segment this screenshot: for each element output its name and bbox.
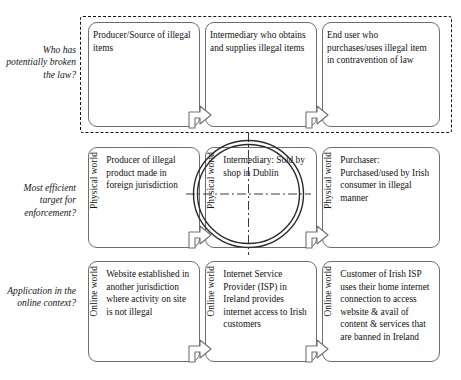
node-text: Customer of Irish ISP uses their home in… — [338, 262, 439, 348]
diagram-canvas: Who has potentially broken the law? Most… — [0, 0, 461, 380]
node-purchaser-irish-consumer[interactable]: Physical world Purchaser: Purchased/used… — [322, 147, 440, 248]
node-text: Internet Service Provider (ISP) in Irela… — [221, 262, 316, 335]
side-caption-physical-world: Physical world — [323, 148, 338, 215]
node-customer-irish-isp[interactable]: Online world Customer of Irish ISP uses … — [322, 261, 440, 362]
node-text: Producer of illegal product made in fore… — [104, 148, 199, 196]
node-text: Producer/Source of illegal items — [89, 23, 199, 58]
node-end-user[interactable]: End user who purchases/uses illegal item… — [322, 22, 440, 127]
node-website-other-jurisdiction[interactable]: Online world Website established in anot… — [88, 261, 200, 362]
node-isp-ireland[interactable]: Online world Internet Service Provider (… — [205, 261, 317, 362]
side-caption-online-world: Online world — [89, 262, 104, 323]
node-text: Purchaser: Purchased/used by Irish consu… — [338, 148, 439, 208]
side-caption-physical-world: Physical world — [89, 148, 104, 215]
node-text: Website established in another jurisdict… — [104, 262, 199, 322]
side-caption-online-world: Online world — [323, 262, 338, 323]
node-producer-foreign-jurisdiction[interactable]: Physical world Producer of illegal produ… — [88, 147, 200, 248]
side-caption-physical-world: Physical world — [206, 148, 221, 215]
row-label-who-broke-law: Who has potentially broken the law? — [2, 44, 76, 81]
node-text: Intermediary who obtains and supplies il… — [206, 23, 316, 58]
node-intermediary-dublin-shop[interactable]: Physical world Intermediary: Sold by sho… — [205, 147, 317, 248]
node-text: End user who purchases/uses illegal item… — [323, 23, 439, 71]
side-caption-online-world: Online world — [206, 262, 221, 323]
node-producer-source[interactable]: Producer/Source of illegal items — [88, 22, 200, 127]
row-label-online-context: Application in the online context? — [2, 285, 76, 310]
node-text: Intermediary: Sold by shop in Dublin — [221, 148, 316, 183]
row-label-enforcement-target: Most efficient target for enforcement? — [2, 182, 76, 219]
node-intermediary-supplier[interactable]: Intermediary who obtains and supplies il… — [205, 22, 317, 127]
